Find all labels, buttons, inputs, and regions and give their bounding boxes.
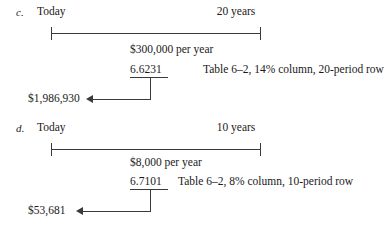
present-value-result-c: $1,986,930: [28, 92, 80, 104]
result-connector-horizontal-d: [82, 211, 151, 212]
item-letter-c: c.: [16, 6, 24, 18]
present-value-result-d: $53,681: [28, 204, 65, 216]
timeline-axis-c: [51, 33, 260, 34]
timeline-tick-start-c: [51, 27, 52, 40]
timeline-start-label-c: Today: [37, 5, 66, 17]
timeline-tick-end-d: [260, 143, 261, 156]
timeline-diagram-c: c. Today 20 years $300,000 per year 6.62…: [0, 0, 388, 116]
annuity-factor-value-c: 6.6231: [130, 63, 162, 75]
worksheet-page: c. Today 20 years $300,000 per year 6.62…: [0, 0, 388, 232]
annual-payment-label-d: $8,000 per year: [130, 156, 202, 168]
result-arrow-icon-c: [86, 95, 93, 103]
item-letter-d: d.: [16, 122, 25, 134]
result-connector-vertical-c: [150, 77, 151, 100]
annuity-factor-note-d: Table 6–2, 8% column, 10-period row: [178, 175, 353, 187]
timeline-end-label-d: 10 years: [217, 121, 256, 133]
timeline-tick-end-c: [260, 27, 261, 40]
factor-underline-c: [130, 77, 168, 78]
annuity-factor-value-d: 6.7101: [130, 175, 162, 187]
result-arrow-icon-d: [76, 207, 83, 215]
timeline-diagram-d: d. Today 10 years $8,000 per year 6.7101…: [0, 116, 388, 232]
timeline-start-label-d: Today: [37, 121, 66, 133]
timeline-axis-d: [51, 149, 260, 150]
annuity-factor-note-c: Table 6–2, 14% column, 20-period row: [203, 63, 384, 75]
annual-payment-label-c: $300,000 per year: [130, 43, 213, 55]
factor-underline-d: [130, 189, 168, 190]
timeline-end-label-c: 20 years: [217, 5, 256, 17]
result-connector-horizontal-c: [92, 99, 151, 100]
timeline-tick-start-d: [51, 143, 52, 156]
result-connector-vertical-d: [150, 189, 151, 212]
